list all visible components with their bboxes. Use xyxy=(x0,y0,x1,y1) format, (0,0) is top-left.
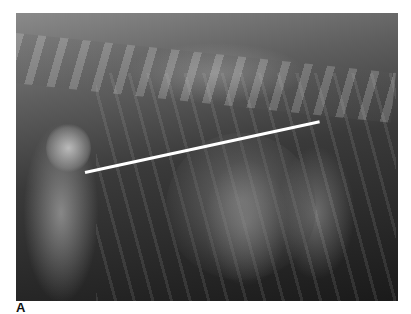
panel-label: A xyxy=(16,302,25,314)
cardiac-silhouette xyxy=(166,133,316,283)
shoulder-joint xyxy=(46,123,91,173)
radiograph-image xyxy=(16,13,398,301)
